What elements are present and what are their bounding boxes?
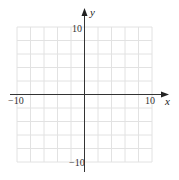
y-axis	[82, 8, 88, 172]
x-min-label: −10	[8, 95, 24, 106]
y-min-label: −10	[69, 157, 85, 168]
x-max-label: 10	[145, 95, 155, 106]
coordinate-plane: y x 10 −10 −10 10	[0, 0, 179, 180]
y-axis-label: y	[89, 6, 95, 18]
y-max-label: 10	[72, 23, 82, 34]
x-axis-label: x	[164, 95, 170, 107]
y-arrow-icon	[82, 8, 88, 16]
